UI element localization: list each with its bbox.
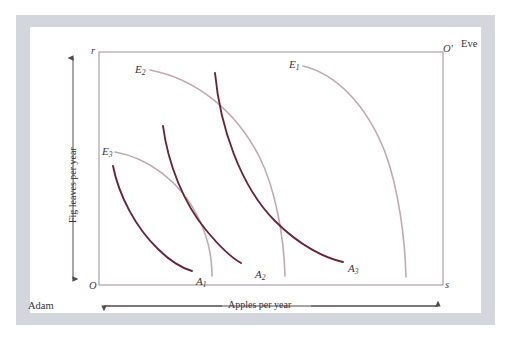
curve-label-E1: E1 [289, 59, 299, 70]
x-axis-title: Apples per year [228, 300, 291, 310]
corner-label-r: r [91, 46, 95, 57]
corner-label-s: s [445, 280, 449, 291]
curve-label-A2-name: A [255, 268, 262, 280]
curve-label-A2-sub: 2 [262, 273, 266, 282]
person-label-eve: Eve [461, 39, 477, 50]
corner-label-o: O [89, 281, 97, 292]
figure-root: r O' Eve O s Adam Apples per year Fig le… [0, 0, 511, 344]
curve-label-E3: E3 [102, 146, 112, 157]
corner-label-o-prime: O' [443, 44, 453, 55]
curve-label-A2: A2 [255, 269, 265, 280]
curve-label-E1-sub: 1 [296, 63, 300, 72]
curve-label-E2: E2 [135, 64, 145, 75]
curve-label-E1-name: E [289, 58, 296, 70]
curve-label-E3-name: E [102, 145, 109, 157]
curve-label-A1-sub: 1 [203, 280, 207, 289]
curve-label-A3: A3 [348, 263, 358, 274]
curve-label-A1: A1 [196, 276, 206, 287]
curve-label-A1-name: A [196, 275, 203, 287]
person-label-adam: Adam [28, 301, 54, 312]
curve-label-E2-name: E [135, 63, 142, 75]
curve-label-E3-sub: 3 [109, 150, 113, 159]
curve-label-E2-sub: 2 [142, 68, 146, 77]
curve-label-A3-name: A [348, 262, 355, 274]
curve-label-A3-sub: 3 [355, 267, 359, 276]
y-axis-title: Fig leaves per year [68, 147, 78, 223]
